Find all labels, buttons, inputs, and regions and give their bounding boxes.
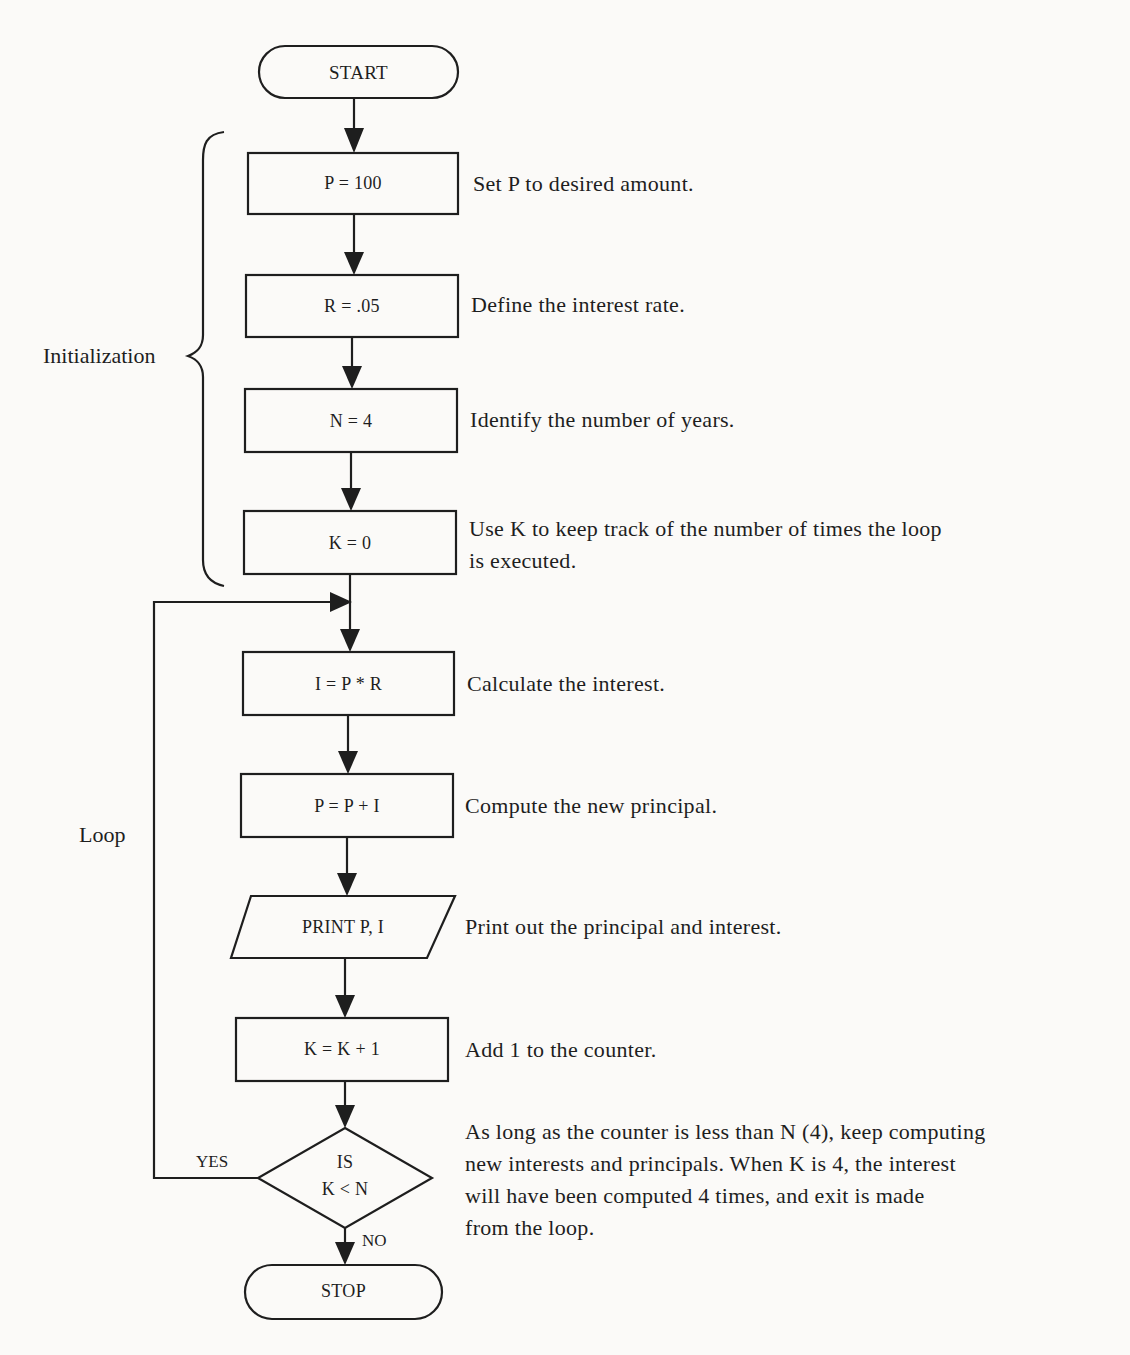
note-inc-k: Add 1 to the counter. — [465, 1034, 656, 1066]
note-calc-p: Compute the new principal. — [465, 790, 717, 822]
calc-p-label: P = P + I — [241, 796, 453, 817]
inc-k-label: K = K + 1 — [236, 1039, 448, 1060]
calc-i-label: I = P * R — [243, 674, 454, 695]
initialization-label: Initialization — [43, 343, 155, 369]
k0-label: K = 0 — [244, 533, 456, 554]
stop-label: STOP — [245, 1281, 442, 1302]
decision-diamond — [258, 1128, 432, 1228]
decision-label-line2: K < N — [285, 1179, 405, 1200]
note-k0-line1: Use K to keep track of the number of tim… — [469, 513, 942, 545]
note-r05: Define the interest rate. — [471, 289, 685, 321]
loop-label: Loop — [79, 822, 125, 848]
note-n4: Identify the number of years. — [470, 404, 735, 436]
decision-label-line1: IS — [285, 1152, 405, 1173]
note-decision-line4: from the loop. — [465, 1212, 594, 1244]
print-label: PRINT P, I — [231, 917, 455, 938]
yes-branch-label: YES — [196, 1152, 228, 1172]
p100-label: P = 100 — [248, 173, 458, 194]
note-calc-i: Calculate the interest. — [467, 668, 665, 700]
note-k0-line2: is executed. — [469, 545, 576, 577]
note-print: Print out the principal and interest. — [465, 911, 782, 943]
start-label: START — [259, 62, 458, 84]
note-decision-line1: As long as the counter is less than N (4… — [465, 1116, 986, 1148]
no-branch-label: NO — [362, 1231, 387, 1251]
note-decision-line2: new interests and principals. When K is … — [465, 1148, 956, 1180]
r05-label: R = .05 — [246, 296, 458, 317]
note-decision-line3: will have been computed 4 times, and exi… — [465, 1180, 924, 1212]
note-p100: Set P to desired amount. — [473, 168, 694, 200]
n4-label: N = 4 — [245, 411, 457, 432]
